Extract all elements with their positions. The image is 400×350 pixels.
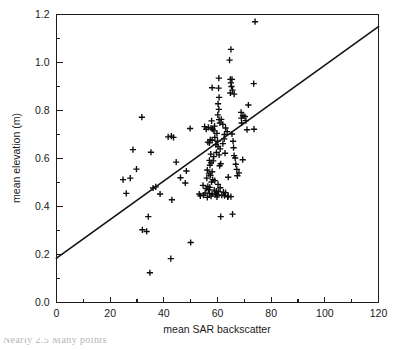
- fit-line-segment: [57, 27, 379, 259]
- data-point: [187, 125, 193, 131]
- data-point: [145, 213, 151, 219]
- data-point: [200, 182, 206, 188]
- data-point: [177, 175, 183, 181]
- data-point: [218, 213, 224, 219]
- data-point: [133, 166, 139, 172]
- y-tick-label: 1.0: [35, 56, 50, 68]
- data-point: [157, 191, 163, 197]
- data-point: [216, 94, 222, 100]
- y-tick-label: 0.0: [35, 296, 50, 308]
- y-tick-label: 0.8: [35, 104, 50, 116]
- data-point: [220, 141, 226, 147]
- data-point: [209, 118, 215, 124]
- x-tick-label: 0: [54, 307, 60, 319]
- data-point: [217, 120, 223, 126]
- x-tick-label: 100: [316, 307, 334, 319]
- y-axis-tick-labels: 0.00.20.40.60.81.01.2: [35, 8, 50, 308]
- data-point: [244, 127, 250, 133]
- data-point: [251, 126, 257, 132]
- data-point: [226, 57, 232, 63]
- data-point: [216, 75, 222, 81]
- x-tick-label: 20: [104, 307, 116, 319]
- data-point: [139, 114, 145, 120]
- regression-line: [57, 27, 379, 259]
- data-point: [252, 19, 258, 25]
- x-axis-tick-labels: 020406080100120: [54, 307, 388, 319]
- data-point: [216, 106, 222, 112]
- caption-text: Nearly 2.5 Many points: [3, 338, 107, 345]
- data-point: [233, 161, 239, 167]
- data-point: [182, 180, 188, 186]
- data-point: [165, 134, 171, 140]
- data-point: [127, 175, 133, 181]
- data-point: [209, 85, 215, 91]
- data-point: [215, 112, 221, 118]
- data-point: [251, 81, 257, 87]
- x-tick-label: 60: [212, 307, 224, 319]
- x-tick-label: 40: [158, 307, 170, 319]
- x-tick-label: 80: [265, 307, 277, 319]
- data-point: [228, 83, 234, 89]
- axes-box: [57, 15, 379, 303]
- y-tick-label: 0.2: [35, 248, 50, 260]
- data-point: [130, 147, 136, 153]
- data-point: [123, 190, 129, 196]
- figure-container: 020406080100120 0.00.20.40.60.81.01.2 me…: [0, 0, 400, 350]
- data-point: [183, 168, 189, 174]
- data-point: [168, 255, 174, 261]
- plot-frame: [57, 15, 379, 303]
- scatter-plot: 020406080100120 0.00.20.40.60.81.01.2 me…: [0, 0, 400, 350]
- data-point: [231, 145, 237, 151]
- page-caption-fragment: Nearly 2.5 Many points: [0, 338, 400, 350]
- y-axis-title: mean elevation (m): [10, 113, 22, 203]
- data-point: [188, 239, 194, 245]
- data-point: [245, 102, 251, 108]
- data-point: [222, 150, 228, 156]
- data-point: [228, 46, 234, 52]
- y-tick-label: 0.4: [35, 200, 50, 212]
- x-axis-ticks: [57, 297, 379, 303]
- data-point: [225, 174, 231, 180]
- data-point: [147, 270, 153, 276]
- data-point: [148, 149, 154, 155]
- data-point: [229, 211, 235, 217]
- data-point-markers: [120, 19, 258, 276]
- data-point: [230, 138, 236, 144]
- x-tick-label: 120: [370, 307, 388, 319]
- y-tick-label: 0.6: [35, 152, 50, 164]
- data-point: [173, 159, 179, 165]
- data-point: [169, 197, 175, 203]
- data-point: [215, 85, 221, 91]
- x-axis-title: mean SAR backscatter: [163, 323, 271, 335]
- y-axis-ticks: [57, 15, 63, 303]
- y-tick-label: 1.2: [35, 8, 50, 20]
- data-point: [240, 157, 246, 163]
- data-point: [215, 101, 221, 107]
- data-point: [120, 177, 126, 183]
